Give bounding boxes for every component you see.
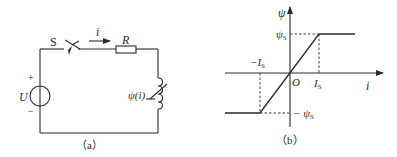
neg-psi-s-label: − ψS	[293, 107, 314, 121]
resistor-label: R	[121, 33, 130, 47]
y-axis-label: ψ	[278, 6, 286, 20]
caption-b: （b）	[276, 134, 304, 146]
resistor-icon	[116, 46, 136, 53]
neg-i-s-label: −IS	[250, 56, 265, 70]
flux-current-graph: ψ i O ψS − ψS IS −IS （b）	[225, 6, 383, 146]
minus-sign: −	[28, 106, 34, 117]
figure-canvas: S i R U + − ψ(i) （a） ψ i O ψS − ψS IS −I…	[0, 0, 397, 157]
current-label: i	[96, 25, 99, 39]
i-s-label: IS	[313, 77, 322, 91]
source-label: U	[19, 90, 29, 104]
origin-label: O	[292, 76, 300, 88]
x-axis-label: i	[366, 79, 369, 93]
switch-icon	[65, 40, 80, 55]
caption-a: （a）	[76, 139, 103, 151]
plus-sign: +	[28, 72, 34, 83]
circuit-diagram: S i R U + − ψ(i) （a）	[19, 25, 167, 151]
inductor-icon	[158, 78, 163, 109]
switch-label: S	[50, 35, 57, 49]
inductor-label: ψ(i)	[128, 89, 146, 102]
psi-s-label: ψS	[276, 28, 287, 42]
